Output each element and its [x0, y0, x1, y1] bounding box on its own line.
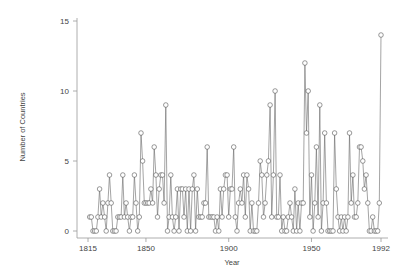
data-point-marker: [94, 229, 99, 234]
data-point-marker: [354, 215, 359, 220]
data-point-marker: [356, 201, 361, 206]
data-point-marker: [309, 173, 314, 178]
data-point-marker: [364, 173, 369, 178]
data-point-marker: [114, 229, 119, 234]
data-point-marker: [347, 131, 352, 136]
x-tick-label: 1900: [220, 244, 238, 253]
series-line: [90, 35, 381, 231]
line-chart: 051015 18151850190019501992 Number of Co…: [0, 0, 410, 272]
data-point-marker: [278, 173, 283, 178]
data-point-marker: [288, 201, 293, 206]
data-point-marker: [205, 145, 210, 150]
data-point-marker: [135, 229, 140, 234]
data-point-marker: [221, 187, 226, 192]
data-point-marker: [256, 201, 261, 206]
data-point-marker: [152, 145, 157, 150]
data-point-marker: [311, 229, 316, 234]
data-point-marker: [313, 201, 318, 206]
data-point-marker: [220, 215, 225, 220]
data-point-marker: [308, 215, 313, 220]
data-point-marker: [238, 187, 243, 192]
data-point-marker: [254, 229, 259, 234]
data-point-marker: [121, 173, 126, 178]
data-point-marker: [379, 33, 384, 38]
data-point-marker: [304, 131, 309, 136]
data-point-marker: [140, 159, 145, 164]
data-point-marker: [104, 229, 109, 234]
data-point-marker: [273, 89, 278, 94]
x-tick-label: 1950: [303, 244, 321, 253]
data-point-marker: [162, 201, 167, 206]
data-point-marker: [346, 215, 351, 220]
data-point-marker: [195, 187, 200, 192]
data-point-marker: [101, 201, 106, 206]
data-point-marker: [177, 229, 182, 234]
data-point-marker: [362, 187, 367, 192]
data-point-marker: [324, 201, 329, 206]
data-point-marker: [190, 187, 195, 192]
data-point-marker: [359, 145, 364, 150]
data-point-marker: [137, 215, 142, 220]
data-point-marker: [149, 187, 154, 192]
data-point-marker: [263, 201, 268, 206]
data-point-marker: [332, 131, 337, 136]
data-point-marker: [351, 173, 356, 178]
x-tick-label: 1850: [137, 244, 155, 253]
y-tick-label: 15: [60, 17, 69, 26]
y-tick-label: 5: [65, 157, 70, 166]
data-point-marker: [173, 215, 178, 220]
data-point-marker: [276, 215, 281, 220]
y-tick-label: 0: [65, 227, 70, 236]
data-point-marker: [192, 173, 197, 178]
data-point-marker: [97, 187, 102, 192]
data-point-marker: [361, 159, 366, 164]
data-point-marker: [233, 215, 238, 220]
data-point-marker: [245, 173, 250, 178]
data-point-marker: [172, 229, 177, 234]
data-point-marker: [132, 173, 137, 178]
data-point-marker: [289, 215, 294, 220]
data-point-marker: [193, 229, 198, 234]
data-point-marker: [334, 187, 339, 192]
data-point-marker: [316, 215, 321, 220]
data-point-marker: [124, 201, 129, 206]
data-point-marker: [89, 215, 94, 220]
data-point-marker: [303, 61, 308, 66]
data-point-marker: [281, 215, 286, 220]
data-point-marker: [188, 229, 193, 234]
data-point-marker: [134, 201, 139, 206]
data-point-marker: [318, 103, 323, 108]
data-point-marker: [240, 201, 245, 206]
data-point-marker: [269, 215, 274, 220]
series-markers: [87, 33, 383, 234]
plot-area: [87, 33, 383, 234]
data-point-marker: [331, 229, 336, 234]
data-point-marker: [154, 173, 159, 178]
data-point-marker: [225, 173, 230, 178]
data-point-marker: [102, 215, 107, 220]
data-point-marker: [306, 89, 311, 94]
data-point-marker: [165, 229, 170, 234]
data-point-marker: [375, 229, 380, 234]
data-point-marker: [377, 201, 382, 206]
data-point-marker: [139, 131, 144, 136]
data-point-marker: [344, 229, 349, 234]
data-point-marker: [235, 229, 240, 234]
data-point-marker: [200, 215, 205, 220]
data-point-marker: [284, 229, 289, 234]
x-axis-label: Year: [224, 258, 240, 267]
data-point-marker: [130, 215, 135, 220]
data-point-marker: [268, 103, 273, 108]
data-point-marker: [203, 201, 208, 206]
data-point-marker: [271, 173, 276, 178]
data-point-marker: [261, 215, 266, 220]
data-point-marker: [127, 229, 132, 234]
data-point-marker: [157, 187, 162, 192]
data-point-marker: [246, 187, 251, 192]
x-tick-label: 1992: [372, 244, 390, 253]
data-point-marker: [160, 173, 165, 178]
data-point-marker: [217, 229, 222, 234]
data-point-marker: [301, 201, 306, 206]
data-point-marker: [322, 131, 327, 136]
data-point-marker: [182, 215, 187, 220]
